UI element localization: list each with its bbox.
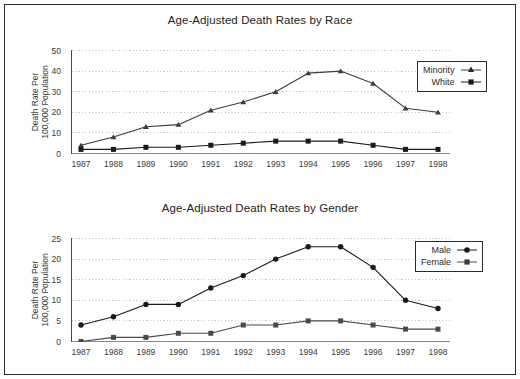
y-tick-label: 30 [25,87,61,97]
x-tick-label: 1997 [390,159,422,169]
chart-gender-svg [71,238,450,342]
x-tick-label: 1992 [227,159,259,169]
legend-marker-male-circle-icon [456,245,478,255]
chart-gender: Age-Adjusted Death Rates by Gender Death… [0,196,520,376]
x-tick-label: 1989 [130,347,162,357]
legend-item-minority[interactable]: Minority [423,64,482,76]
y-tick-label: 15 [25,275,61,285]
chart-race-plot-area [71,50,450,154]
legend-label-minority: Minority [423,65,455,75]
x-tick-label: 1998 [422,159,454,169]
y-tick-label: 10 [25,295,61,305]
x-tick-label: 1987 [65,347,97,357]
legend-label-white: White [432,77,455,87]
chart-gender-legend: Male Female [415,241,483,272]
y-tick-label: 20 [25,254,61,264]
chart-race-legend: Minority White [417,61,487,92]
y-tick-label: 0 [25,337,61,347]
x-tick-label: 1987 [65,159,97,169]
legend-marker-white-square-icon [460,77,482,87]
x-tick-label: 1996 [357,347,389,357]
legend-marker-minority-triangle-icon [460,65,482,75]
x-tick-label: 1990 [162,347,194,357]
legend-label-female: Female [421,257,451,267]
y-tick-label: 50 [25,46,61,56]
x-tick-label: 1989 [130,159,162,169]
y-tick-label: 40 [25,66,61,76]
legend-item-female[interactable]: Female [421,256,478,268]
x-tick-label: 1991 [195,159,227,169]
x-tick-label: 1991 [195,347,227,357]
y-tick-label: 0 [25,149,61,159]
chart-page: Age-Adjusted Death Rates by Race Death R… [0,0,520,379]
x-tick-label: 1994 [292,347,324,357]
legend-item-white[interactable]: White [423,76,482,88]
x-tick-label: 1997 [390,347,422,357]
chart-gender-plot-area [71,238,450,342]
x-tick-label: 1988 [97,159,129,169]
chart-race-title: Age-Adjusted Death Rates by Race [0,14,520,26]
x-tick-label: 1995 [325,159,357,169]
x-tick-label: 1995 [325,347,357,357]
x-tick-label: 1994 [292,159,324,169]
chart-race: Age-Adjusted Death Rates by Race Death R… [0,8,520,190]
y-tick-label: 20 [25,107,61,117]
x-tick-label: 1998 [422,347,454,357]
legend-label-male: Male [432,245,452,255]
x-tick-label: 1996 [357,159,389,169]
y-tick-label: 5 [25,316,61,326]
y-tick-label: 25 [25,234,61,244]
x-tick-label: 1993 [260,159,292,169]
legend-item-male[interactable]: Male [421,244,478,256]
chart-gender-title: Age-Adjusted Death Rates by Gender [0,202,520,214]
x-tick-label: 1990 [162,159,194,169]
y-tick-label: 10 [25,128,61,138]
x-tick-label: 1988 [97,347,129,357]
x-tick-label: 1993 [260,347,292,357]
x-tick-label: 1992 [227,347,259,357]
legend-marker-female-square-icon [456,257,478,267]
chart-race-svg [71,50,450,154]
